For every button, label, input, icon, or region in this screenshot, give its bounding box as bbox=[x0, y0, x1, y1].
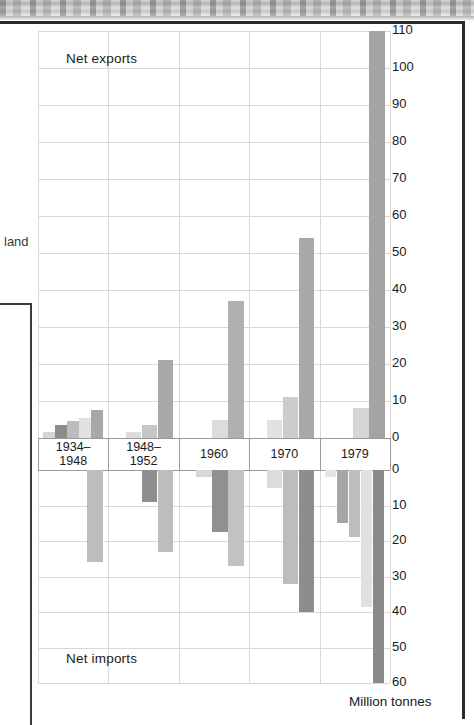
left-margin-box bbox=[0, 303, 32, 725]
bar bbox=[361, 470, 373, 607]
bar bbox=[228, 470, 244, 566]
axis-tick-label: 0 bbox=[392, 429, 399, 444]
value-axis: 01020304050607080901001100102030405060 bbox=[392, 31, 470, 683]
category-label: 1948– 1952 bbox=[108, 438, 178, 470]
bar bbox=[79, 418, 91, 438]
bar bbox=[212, 470, 228, 532]
axis-tick-label: 90 bbox=[392, 96, 406, 111]
bar bbox=[91, 410, 103, 438]
bar bbox=[353, 408, 369, 438]
category-label: 1934– 1948 bbox=[38, 438, 108, 470]
gridline-v bbox=[390, 31, 391, 438]
bar bbox=[142, 425, 158, 438]
bar bbox=[158, 470, 174, 552]
bar bbox=[299, 470, 315, 612]
net-imports-label: Net imports bbox=[66, 651, 137, 666]
bar bbox=[325, 470, 337, 477]
axis-tick-label: 20 bbox=[392, 532, 406, 547]
axis-tick-label: 70 bbox=[392, 170, 406, 185]
axis-tick-label: 50 bbox=[392, 639, 406, 654]
axis-tick-label: 40 bbox=[392, 281, 406, 296]
axis-tick-label: 0 bbox=[392, 461, 399, 476]
axis-tick-label: 60 bbox=[392, 674, 406, 689]
bar bbox=[196, 470, 212, 477]
axis-tick-label: 40 bbox=[392, 603, 406, 618]
category-axis-band: 1934– 19481948– 1952196019701979 bbox=[38, 438, 390, 470]
bar bbox=[283, 397, 299, 438]
axis-tick-label: 30 bbox=[392, 568, 406, 583]
axis-tick-label: 110 bbox=[392, 22, 413, 37]
chart-plot-area: 1934– 19481948– 1952196019701979 Net exp… bbox=[38, 31, 390, 683]
category-label: 1970 bbox=[249, 438, 319, 470]
axis-tick-label: 60 bbox=[392, 207, 406, 222]
gridline-h bbox=[38, 683, 390, 684]
axis-tick-label: 100 bbox=[392, 59, 414, 74]
axis-tick-label: 20 bbox=[392, 355, 406, 370]
bar bbox=[349, 470, 361, 537]
net-exports-label: Net exports bbox=[66, 51, 137, 66]
bars-layer bbox=[38, 31, 390, 683]
units-label: Million tonnes bbox=[349, 694, 432, 709]
bar bbox=[212, 420, 228, 439]
bar bbox=[267, 470, 283, 488]
axis-tick-label: 10 bbox=[392, 392, 406, 407]
axis-tick-label: 30 bbox=[392, 318, 406, 333]
category-divider bbox=[390, 438, 391, 470]
axis-tick-label: 10 bbox=[392, 497, 406, 512]
bar bbox=[299, 238, 315, 438]
gridline-v bbox=[390, 470, 391, 683]
scan-top-edge-texture bbox=[0, 0, 474, 16]
bar bbox=[67, 421, 79, 438]
bar bbox=[283, 470, 299, 584]
bar bbox=[55, 425, 67, 438]
axis-tick-label: 80 bbox=[392, 133, 406, 148]
side-label: land bbox=[4, 234, 29, 249]
category-label: 1960 bbox=[179, 438, 249, 470]
bar bbox=[369, 31, 385, 438]
axis-tick-label: 50 bbox=[392, 244, 406, 259]
bar bbox=[267, 420, 283, 439]
bar bbox=[87, 470, 103, 562]
bar bbox=[228, 301, 244, 438]
bar bbox=[142, 470, 158, 502]
bar bbox=[373, 470, 385, 683]
bar bbox=[158, 360, 174, 438]
category-label: 1979 bbox=[320, 438, 390, 470]
bar bbox=[337, 470, 349, 523]
